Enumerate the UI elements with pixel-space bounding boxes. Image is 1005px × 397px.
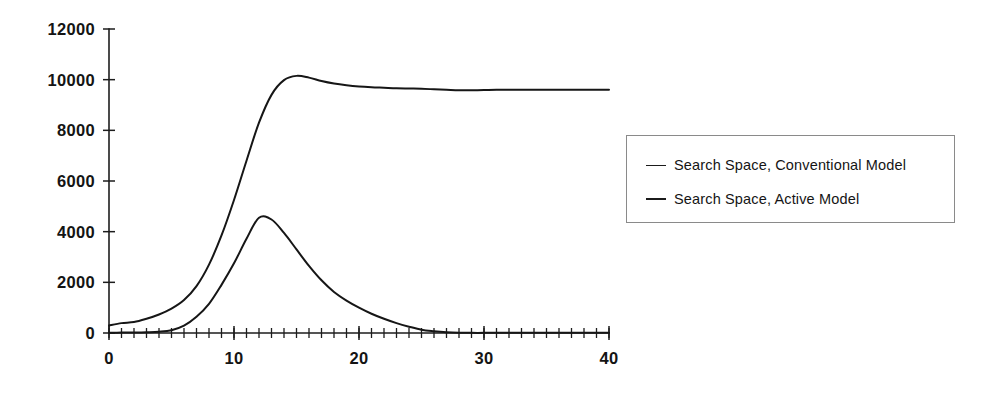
y-axis-tick-labels: 020004000600080001000012000: [48, 20, 95, 342]
series-line-active-model: [109, 216, 609, 333]
legend-item-active-model: Search Space, Active Model: [627, 186, 954, 212]
x-axis-tick-labels: 010203040: [104, 349, 618, 367]
chart-legend: Search Space, Conventional Model Search …: [626, 135, 955, 223]
legend-item-label: Search Space, Conventional Model: [674, 157, 906, 173]
y-tick-label: 2000: [57, 273, 95, 291]
series-line-conventional-model: [109, 76, 609, 326]
y-tick-label: 0: [86, 324, 95, 342]
x-tick-label: 30: [475, 349, 494, 367]
line-marker-icon: [646, 198, 666, 200]
legend-item-label: Search Space, Active Model: [674, 191, 859, 207]
axes-group: [109, 29, 609, 333]
x-tick-label: 0: [104, 349, 113, 367]
x-tick-label: 20: [350, 349, 369, 367]
y-tick-label: 12000: [48, 20, 95, 38]
series-group: [109, 76, 609, 333]
chart-figure: 020004000600080001000012000 010203040 Se…: [0, 0, 1005, 397]
y-tick-label: 4000: [57, 223, 95, 241]
x-tick-label: 10: [225, 349, 244, 367]
line-marker-icon: [646, 165, 666, 166]
y-tick-label: 10000: [48, 71, 95, 89]
y-tick-label: 8000: [57, 121, 95, 139]
legend-item-conventional-model: Search Space, Conventional Model: [627, 152, 954, 178]
x-tick-label: 40: [600, 349, 619, 367]
y-tick-label: 6000: [57, 172, 95, 190]
